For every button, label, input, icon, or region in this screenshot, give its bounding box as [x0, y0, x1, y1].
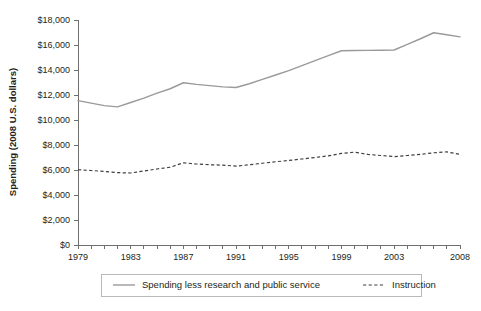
- y-tick-label: $18,000: [37, 15, 70, 25]
- y-tick-label: $12,000: [37, 90, 70, 100]
- y-axis-title: Spending (2008 U.S. dollars): [7, 68, 18, 196]
- x-tick-label: 1999: [331, 252, 351, 262]
- legend-label-1: Spending less research and public servic…: [142, 279, 320, 290]
- data-series-layer: [78, 33, 460, 173]
- y-tick-label: $0: [60, 240, 70, 250]
- y-axis-title-text: Spending (2008 U.S. dollars): [7, 68, 18, 196]
- series-line-1: [78, 33, 460, 107]
- x-tick-label: 1987: [173, 252, 193, 262]
- y-tick-label: $2,000: [42, 215, 70, 225]
- x-tick-label: 1995: [279, 252, 299, 262]
- series-line-2: [78, 152, 460, 173]
- y-tick-label: $10,000: [37, 115, 70, 125]
- plot-axes: [78, 20, 460, 245]
- y-tick-label: $4,000: [42, 190, 70, 200]
- y-axis-tick-marks: [74, 20, 78, 245]
- x-tick-label: 2003: [384, 252, 404, 262]
- x-tick-label: 1979: [68, 252, 88, 262]
- x-tick-label: 2008: [450, 252, 470, 262]
- y-tick-label: $6,000: [42, 165, 70, 175]
- chart-legend: Spending less research and public servic…: [101, 274, 436, 296]
- x-axis-tick-marks: [78, 245, 460, 249]
- x-tick-label: 1983: [121, 252, 141, 262]
- figure-container: $0$2,000$4,000$6,000$8,000$10,000$12,000…: [0, 0, 481, 311]
- x-tick-label: 1991: [226, 252, 246, 262]
- y-tick-label: $14,000: [37, 65, 70, 75]
- y-tick-label: $16,000: [37, 40, 70, 50]
- x-axis-tick-labels: 19791983198719911995199920032008: [68, 252, 470, 262]
- y-tick-label: $8,000: [42, 140, 70, 150]
- legend-label-2: Instruction: [392, 279, 436, 290]
- line-chart: $0$2,000$4,000$6,000$8,000$10,000$12,000…: [0, 0, 481, 311]
- y-axis-tick-labels: $0$2,000$4,000$6,000$8,000$10,000$12,000…: [37, 15, 70, 250]
